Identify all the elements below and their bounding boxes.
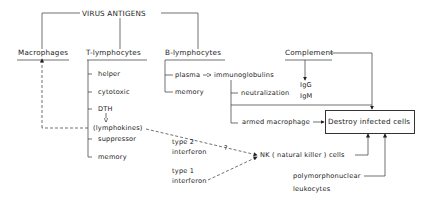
igg-label: IgG (300, 82, 312, 89)
macrophages-label: Macrophages (18, 49, 68, 56)
type2-interferon-line1: type 2 (172, 139, 194, 146)
type1-interferon-line1: type 1 (172, 168, 194, 175)
complement-label: Complement (285, 49, 333, 56)
type2-interferon-line2: interferon (172, 149, 207, 156)
uncertain-mark: ? (224, 145, 228, 152)
pmn-label-line1: polymorphonuclear (293, 173, 361, 180)
pmn-label-line2: leukocytes (293, 186, 330, 193)
type1-interferon-line2: interferon (172, 178, 207, 185)
armed-macrophage-label: armed macrophage (242, 119, 310, 126)
immunoglobulins-label: immunoglobulins (214, 72, 274, 79)
t-memory-label: memory (98, 154, 127, 161)
t-suppressor-label: suppressor (98, 136, 136, 143)
neutralization-label: neutralization (241, 90, 289, 97)
t-helper-label: helper (98, 71, 120, 78)
t-cytotoxic-label: cytotoxic (98, 89, 130, 96)
destroy-infected-cells-label: Destroy infected cells (328, 118, 410, 125)
nk-cells-label: NK ( natural killer ) cells (260, 152, 345, 159)
igm-label: IgM (300, 93, 312, 100)
virus-antigens-title: VIRUS ANTIGENS (82, 10, 146, 17)
b-memory-label: memory (175, 89, 204, 96)
t-lymphocytes-label: T-lymphocytes (86, 49, 141, 56)
connector-lines (0, 0, 429, 202)
b-plasma-label: plasma (175, 72, 200, 79)
b-lymphocytes-label: B-lymphocytes (165, 49, 221, 56)
lymphokines-label: (lymphokines) (93, 125, 143, 132)
t-dth-label: DTH (98, 106, 113, 113)
